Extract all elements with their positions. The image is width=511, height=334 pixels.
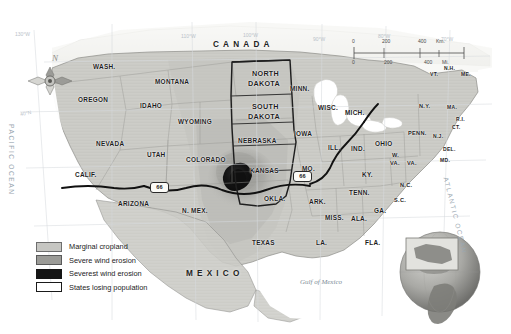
legend-row-marginal-cropland: Marginal cropland	[36, 240, 147, 254]
state-label-okla: OKLA.	[264, 196, 285, 202]
state-label-ala: ALA.	[351, 216, 367, 222]
state-label-wyoming: WYOMING	[178, 119, 212, 125]
state-label-ky: KY.	[362, 172, 373, 178]
scale-mi-tick-400: 400	[424, 59, 432, 65]
scale-bar: 0 200 400 Km. 0 200 400 Mi.	[352, 38, 478, 66]
legend-row-states-losing-population: States losing population	[36, 281, 147, 295]
state-label-ill: ILL.	[328, 145, 341, 151]
state-label-del: DEL.	[443, 147, 456, 152]
graticule-label: 90°W	[313, 36, 325, 42]
route-66-shield-west: 66	[150, 182, 169, 193]
state-label-ma: MA.	[447, 105, 457, 110]
scale-mi-unit: Mi.	[442, 59, 449, 65]
legend-label-states-losing-population: States losing population	[69, 283, 147, 292]
state-label-nebraska: NEBRASKA	[238, 138, 277, 144]
state-label-ri: R.I.	[456, 117, 465, 122]
state-label-montana: MONTANA	[155, 79, 189, 85]
scale-km-tick-0: 0	[352, 38, 355, 44]
state-label-va: VA.	[407, 161, 417, 167]
state-label-la: LA.	[316, 240, 327, 246]
state-label-sc: S.C.	[394, 198, 406, 204]
state-label-ga: GA.	[374, 208, 386, 214]
state-label-oregon: OREGON	[78, 97, 108, 103]
graticule-label: 110°W	[181, 33, 196, 39]
state-label-south: SOUTH	[252, 103, 279, 110]
state-label-vt: VT.	[430, 72, 438, 77]
compass-rose: N	[22, 45, 78, 107]
scale-mi-tick-0: 0	[352, 59, 355, 65]
state-label-dakota-n: DAKOTA	[248, 80, 280, 87]
dust-bowl-map: N 130°W 110°W 100°W 90°W 80°W 70°W 40°N …	[0, 0, 511, 334]
state-label-penn: PENN.	[408, 131, 427, 137]
scale-mi-tick-200: 200	[384, 59, 392, 65]
scale-km-unit: Km.	[436, 38, 445, 44]
state-label-colorado: COLORADO	[186, 157, 226, 163]
state-label-nevada: NEVADA	[96, 141, 124, 147]
scale-bar-graphic	[353, 46, 465, 60]
state-label-w-va-1: W.	[392, 153, 399, 159]
state-label-ind: IND.	[351, 146, 365, 152]
water-label-gulf-of-mexico: Gulf of Mexico	[300, 278, 342, 286]
graticule-label: 100°W	[243, 32, 258, 38]
state-label-me: ME.	[461, 72, 471, 77]
state-label-dakota-s: DAKOTA	[248, 113, 280, 120]
state-label-kansas: KANSAS	[250, 168, 279, 174]
legend-swatch-severest-wind-erosion	[36, 269, 62, 279]
graticule-label: 130°W	[15, 31, 30, 37]
state-label-minn: MINN.	[290, 86, 310, 92]
state-label-north: NORTH	[252, 70, 279, 77]
state-label-ohio: OHIO	[375, 141, 393, 147]
state-label-utah: UTAH	[147, 152, 165, 158]
state-label-mich: MICH.	[345, 110, 365, 116]
legend-swatch-severe-wind-erosion	[36, 255, 62, 265]
legend-label-marginal-cropland: Marginal cropland	[69, 242, 128, 251]
state-label-idaho: IDAHO	[140, 103, 162, 109]
compass-north-label: N	[51, 53, 59, 63]
state-label-calif: CALIF.	[75, 172, 97, 178]
state-label-nj: N.J.	[433, 134, 443, 139]
legend-swatch-states-losing-population	[36, 282, 62, 292]
state-label-md: MD.	[440, 158, 450, 163]
state-label-ct: CT.	[452, 125, 460, 130]
scale-km-tick-400: 400	[418, 38, 426, 44]
legend-label-severest-wind-erosion: Severest wind erosion	[69, 269, 142, 278]
ocean-label-pacific: PACIFIC OCEAN	[8, 124, 15, 196]
legend-label-severe-wind-erosion: Severe wind erosion	[69, 256, 136, 265]
state-label-miss: MISS.	[325, 215, 344, 221]
state-label-nh: N.H.	[444, 66, 455, 71]
state-label-arizona: ARIZONA	[118, 201, 149, 207]
state-label-ark: ARK.	[309, 199, 326, 205]
state-label-tenn: TENN.	[349, 190, 370, 196]
state-label-fla: FLA.	[365, 240, 380, 246]
state-label-w-va-2: VA.	[390, 161, 400, 167]
state-label-nc: N.C.	[400, 183, 412, 189]
route-66-shield-east: 66	[293, 171, 312, 182]
scale-km-tick-200: 200	[382, 38, 390, 44]
legend-swatch-marginal-cropland	[36, 242, 62, 252]
state-label-iowa: IOWA	[294, 131, 312, 137]
legend-row-severe-wind-erosion: Severe wind erosion	[36, 254, 147, 268]
state-label-wisc: WISC.	[318, 105, 338, 111]
legend-row-severest-wind-erosion: Severest wind erosion	[36, 267, 147, 281]
state-label-n-mex: N. MEX.	[182, 208, 208, 214]
country-label-canada: CANADA	[213, 40, 274, 49]
state-label-texas: TEXAS	[252, 240, 275, 246]
country-label-mexico: MEXICO	[186, 269, 244, 278]
state-label-wash: WASH.	[93, 64, 115, 70]
map-legend: Marginal cropland Severe wind erosion Se…	[36, 240, 147, 294]
state-label-ny: N.Y.	[419, 104, 430, 110]
